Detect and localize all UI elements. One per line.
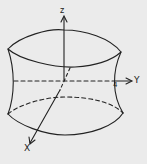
diagram-canvas: z Y X 4: [0, 0, 147, 164]
bottom-ellipse-back: [8, 97, 123, 114]
z-axis-label: z: [60, 7, 64, 15]
x-axis: [30, 90, 60, 143]
y-axis-label: Y: [134, 76, 140, 85]
hyperboloid-drawing: [0, 0, 147, 164]
x-axis-label: X: [24, 144, 30, 153]
left-side: [8, 49, 13, 114]
bottom-ellipse-front: [8, 113, 123, 135]
intercept-label: 4: [113, 82, 117, 89]
x-axis-hidden: [60, 68, 70, 90]
